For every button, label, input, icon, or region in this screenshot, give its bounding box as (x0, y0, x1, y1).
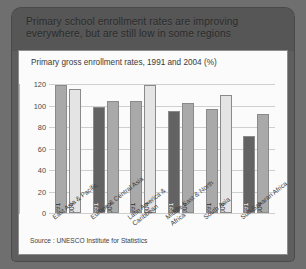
y-axis-tick: 100 (22, 102, 46, 111)
slide: Primary school enrollment rates are impr… (12, 8, 294, 261)
bar: 1991 (93, 107, 105, 213)
bar: 1991 (130, 101, 142, 213)
y-axis-tick: 120 (22, 80, 46, 89)
chart-panel: Primary gross enrollment rates, 1991 and… (19, 51, 287, 254)
y-axis-tick: 80 (22, 123, 46, 132)
chart-title: Primary gross enrollment rates, 1991 and… (31, 58, 217, 67)
y-axis-tick: 20 (22, 188, 46, 197)
y-axis-line (19, 84, 20, 214)
source-note: Source : UNESCO Institute for Statistics (30, 237, 147, 244)
y-axis-tick: 60 (22, 145, 46, 154)
y-axis-tick: 40 (22, 166, 46, 175)
page-title: Primary school enrollment rates are impr… (26, 16, 280, 41)
bar: 1991 (55, 85, 67, 213)
y-axis-tick: 0 (22, 209, 46, 218)
slide-header: Primary school enrollment rates are impr… (12, 8, 294, 51)
